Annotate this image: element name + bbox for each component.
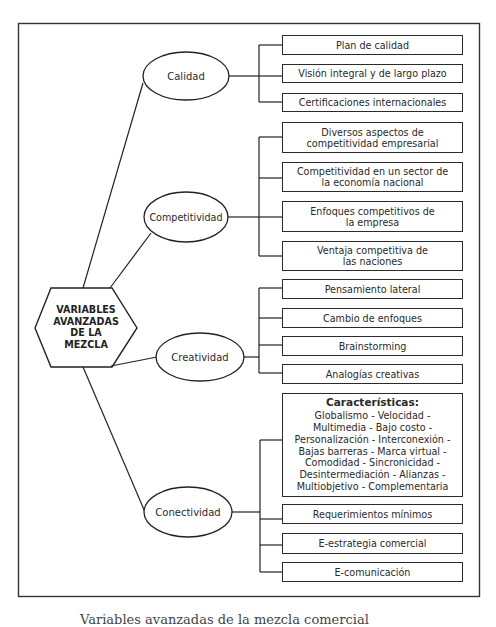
item-box: Plan de calidad [282, 35, 463, 55]
item-text: Analogías creativas [326, 369, 420, 380]
bracket-conectividad [232, 440, 282, 572]
item-box: Ventaja competitiva de las naciones [282, 241, 463, 271]
item-text: Plan de calidad [336, 40, 409, 51]
item-text: Personalización - Interconexión - [295, 434, 451, 446]
branch-label-calidad: Calidad [167, 71, 205, 82]
item-text: competitividad empresarial [307, 138, 439, 149]
item-text: Enfoques competitivos de [310, 206, 434, 217]
item-text: Pensamiento lateral [325, 284, 421, 295]
figure-caption: Variables avanzadas de la mezcla comerci… [80, 612, 480, 627]
item-box: Brainstorming [282, 336, 463, 356]
characteristics-heading: Características: [326, 397, 419, 409]
item-text: las naciones [343, 256, 402, 267]
item-text: Certificaciones internacionales [299, 97, 447, 108]
item-text: Desintermediación - Alianzas - [299, 469, 445, 481]
item-text: E-estrategia comercial [319, 538, 427, 549]
item-box: Diversos aspectos de competitividad empr… [282, 122, 463, 153]
item-box: Analogías creativas [282, 364, 463, 384]
branch-label-competitividad: Competitividad [149, 212, 222, 223]
center-label-line: DE LA [35, 327, 137, 339]
bracket-competitividad [228, 137, 282, 256]
item-box: Pensamiento lateral [282, 279, 463, 299]
item-text: Visión integral y de largo plazo [298, 68, 446, 79]
item-text: E-comunicación [335, 567, 411, 578]
item-text: Cambio de enfoques [323, 313, 422, 324]
item-box: Cambio de enfoques [282, 308, 463, 328]
item-text: Diversos aspectos de [321, 127, 423, 138]
item-box: Visión integral y de largo plazo [282, 64, 463, 83]
connector-calidad [83, 83, 143, 288]
item-box: Competitividad en un sector de la econom… [282, 162, 463, 192]
item-box: Enfoques competitivos de la empresa [282, 201, 463, 232]
item-text: Multiobjetivo - Complementaria [297, 481, 449, 493]
item-text: la economía nacional [322, 177, 424, 188]
center-label-line: MEZCLA [35, 339, 137, 351]
item-text: Brainstorming [339, 341, 407, 352]
characteristics-box: Características: Globalismo - Velocidad … [282, 393, 463, 497]
connector-conectividad [83, 367, 145, 512]
item-box: Requerimientos mínimos [282, 504, 463, 524]
item-text: Requerimientos mínimos [313, 509, 432, 520]
item-text: Competitividad en un sector de [297, 166, 448, 177]
connector-competitividad [110, 233, 151, 288]
item-text: Multimedia - Bajo costo - [313, 422, 432, 434]
bracket-calidad [229, 45, 282, 102]
branch-label-conectividad: Conectividad [155, 507, 220, 518]
branch-label-creatividad: Creatividad [171, 352, 228, 363]
item-text: la empresa [346, 217, 399, 228]
item-box: E-estrategia comercial [282, 533, 463, 554]
item-text: Globalismo - Velocidad - [315, 410, 431, 422]
center-label: VARIABLES AVANZADAS DE LA MEZCLA [35, 304, 137, 350]
center-label-line: VARIABLES [35, 304, 137, 316]
bracket-creatividad [244, 288, 282, 373]
item-box: Certificaciones internacionales [282, 93, 463, 112]
item-text: Bajas barreras - Marca virtual - [298, 446, 446, 458]
center-label-line: AVANZADAS [35, 316, 137, 328]
item-text: Ventaja competitiva de [317, 245, 428, 256]
item-box: E-comunicación [282, 562, 463, 582]
item-text: Comodidad - Sincronicidad - [305, 457, 440, 469]
